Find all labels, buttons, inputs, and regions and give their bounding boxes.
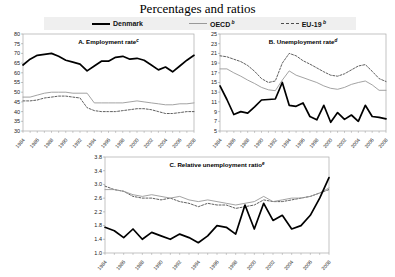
legend-item-eu-19: EU-19 b: [281, 19, 326, 28]
panel-title: B. Unemployment rated: [269, 38, 338, 45]
x-tick-label: 1992: [266, 137, 278, 150]
chart-panel-a: 3035404550556065707580198419861988199019…: [3, 30, 200, 155]
y-tick-label: 9: [214, 109, 217, 115]
panel-title: C. Relative unemployment ratioe: [169, 161, 265, 168]
chart-panel-b-svg: 5791113151719212325198419861988199019921…: [200, 30, 392, 155]
y-tick-label: 2.2: [94, 209, 102, 215]
y-tick-label: 23: [211, 41, 217, 47]
y-tick-label: 19: [211, 60, 217, 66]
y-tick-label: 1.4: [94, 236, 102, 242]
y-tick-label: 5: [214, 128, 217, 134]
x-tick-label: 1996: [100, 137, 112, 150]
x-tick-label: 2002: [264, 259, 276, 272]
y-tick-label: 3.8: [94, 154, 102, 160]
x-tick-label: 1988: [43, 137, 55, 150]
x-tick-label: 2006: [171, 137, 183, 150]
legend-label-denmark: Denmark: [113, 20, 143, 27]
x-tick-label: 2002: [142, 137, 154, 150]
eu-19-line-sample-icon: [281, 23, 299, 24]
y-tick-label: 75: [14, 41, 20, 47]
x-tick-label: 2006: [301, 259, 313, 272]
x-tick-label: 1994: [189, 259, 201, 272]
y-tick-label: 3.0: [94, 181, 102, 187]
y-tick-label: 80: [14, 31, 20, 37]
y-tick-label: 15: [211, 79, 217, 85]
y-tick-label: 21: [211, 50, 217, 56]
y-tick-label: 1.0: [94, 250, 102, 256]
chart-panel-b: 5791113151719212325198419861988199019921…: [200, 30, 392, 155]
x-tick-label: 1996: [208, 259, 220, 272]
y-tick-label: 3.4: [94, 168, 102, 174]
y-tick-label: 2.6: [94, 195, 102, 201]
x-tick-label: 1986: [225, 137, 237, 150]
x-tick-label: 1992: [171, 259, 183, 272]
x-tick-label: 2004: [349, 137, 361, 150]
legend-item-denmark: Denmark: [92, 20, 143, 27]
x-tick-label: 2000: [128, 137, 140, 150]
x-tick-label: 2008: [377, 137, 389, 150]
x-tick-label: 1998: [114, 137, 126, 150]
x-tick-label: 1994: [85, 137, 97, 150]
oecd-line-sample-icon: [189, 23, 207, 24]
x-tick-label: 1990: [57, 137, 69, 150]
y-tick-label: 13: [211, 89, 217, 95]
y-tick-label: 65: [14, 60, 20, 66]
legend-label-eu-19: EU-19 b: [302, 19, 326, 28]
y-tick-label: 17: [211, 70, 217, 76]
x-tick-label: 2000: [245, 259, 257, 272]
x-tick-label: 2002: [336, 137, 348, 150]
legend-label-oecd: OECD b: [210, 19, 235, 28]
y-tick-label: 70: [14, 50, 20, 56]
x-tick-label: 2006: [363, 137, 375, 150]
x-tick-label: 1990: [253, 137, 265, 150]
figure-title: Percentages and ratios: [0, 1, 395, 17]
x-tick-label: 1988: [133, 259, 145, 272]
x-tick-label: 1986: [28, 137, 40, 150]
x-tick-label: 1988: [239, 137, 251, 150]
x-tick-label: 1994: [280, 137, 292, 150]
x-tick-label: 1984: [14, 137, 26, 150]
x-tick-label: 2000: [322, 137, 334, 150]
x-tick-label: 2004: [283, 259, 295, 272]
x-tick-label: 1996: [294, 137, 306, 150]
x-tick-label: 1998: [308, 137, 320, 150]
y-tick-label: 50: [14, 89, 20, 95]
y-tick-label: 40: [14, 109, 20, 115]
x-tick-label: 1984: [211, 137, 223, 150]
plot-area: [23, 34, 194, 131]
legend: DenmarkOECD bEU-19 b: [44, 17, 356, 30]
y-tick-label: 1.8: [94, 222, 102, 228]
x-tick-label: 1986: [115, 259, 127, 272]
x-tick-label: 2008: [185, 137, 197, 150]
y-tick-label: 60: [14, 70, 20, 76]
y-tick-label: 45: [14, 99, 20, 105]
y-tick-label: 25: [211, 31, 217, 37]
chart-panel-a-svg: 3035404550556065707580198419861988199019…: [3, 30, 200, 155]
panel-title: A. Employment ratec: [78, 38, 139, 45]
x-tick-label: 1998: [227, 259, 239, 272]
x-tick-label: 2008: [320, 259, 332, 272]
chart-panel-c-svg: 1.01.41.82.22.63.03.43.81984198619881990…: [85, 153, 335, 277]
y-tick-label: 11: [211, 99, 217, 105]
x-tick-label: 2004: [157, 137, 169, 150]
legend-item-oecd: OECD b: [189, 19, 235, 28]
x-tick-label: 1992: [71, 137, 83, 150]
x-tick-label: 1984: [96, 259, 108, 272]
y-tick-label: 7: [214, 118, 217, 124]
x-tick-label: 1990: [152, 259, 164, 272]
chart-panel-c: 1.01.41.82.22.63.03.43.81984198619881990…: [85, 153, 335, 277]
y-tick-label: 55: [14, 79, 20, 85]
y-tick-label: 30: [14, 128, 20, 134]
denmark-line-sample-icon: [92, 23, 110, 25]
figure: Percentages and ratios DenmarkOECD bEU-1…: [0, 0, 395, 277]
y-tick-label: 35: [14, 118, 20, 124]
